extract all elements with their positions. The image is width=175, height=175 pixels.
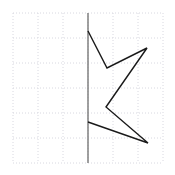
figure-canvas bbox=[0, 0, 175, 175]
half-star-polyline bbox=[88, 31, 148, 143]
figure-svg bbox=[0, 0, 175, 175]
